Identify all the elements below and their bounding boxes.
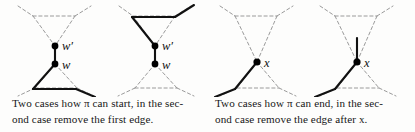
dashed-edge — [177, 88, 194, 96]
dashed-edge — [135, 64, 155, 88]
solid-edge — [132, 17, 155, 46]
node-label-w-prime: w′ — [62, 39, 73, 53]
caption-start-line-1: Two cases how π can start, in the sec- — [12, 96, 219, 112]
diagram-end-case-2: x — [315, 6, 396, 97]
node-label-w: w — [62, 58, 71, 72]
dashed-edge — [220, 6, 235, 16]
node-label-w-prime: w′ — [162, 39, 173, 53]
diagram-end-case-1: x — [215, 6, 296, 97]
diagram-group-start: w′ w — [0, 0, 207, 97]
caption-start: Two cases how π can start, in the sec- o… — [0, 96, 219, 127]
dashed-edge — [377, 6, 393, 16]
dashed-lattice-end-1 — [220, 6, 296, 96]
diagram-start-case-2: w′ w — [118, 5, 194, 96]
solid-path-start-2 — [132, 5, 194, 64]
diagram-start-case-1: w′ w — [18, 6, 95, 97]
caption-end-line-2: ond case remove the edge after x. — [215, 112, 415, 128]
diagram-area-start: w′ w — [0, 0, 207, 97]
diagram-area-end: x — [207, 0, 415, 97]
solid-edge — [235, 62, 257, 89]
node-w-prime — [152, 43, 159, 50]
node-label-w: w — [162, 58, 171, 72]
dashed-edge — [18, 6, 33, 16]
caption-start-line-2: ond case remove the first edge. — [12, 112, 219, 128]
dashed-edge — [75, 6, 91, 16]
dashed-edge — [379, 88, 396, 96]
node-x — [253, 58, 260, 65]
node-label-x: x — [363, 56, 370, 70]
caption-end-line-1: Two cases how π can end, in the sec- — [215, 96, 415, 112]
dashed-edge — [335, 16, 357, 62]
figure-panel-end: x — [207, 0, 415, 132]
solid-edge — [175, 5, 194, 17]
solid-edge — [33, 64, 55, 89]
figure-root: w′ w — [0, 0, 415, 132]
caption-end: Two cases how π can end, in the sec- ond… — [207, 96, 415, 127]
node-x — [353, 58, 360, 65]
node-label-x: x — [263, 56, 270, 70]
node-w-prime — [52, 43, 59, 50]
diagram-group-end: x — [207, 0, 415, 97]
dashed-edge — [279, 88, 296, 96]
dashed-edge — [119, 6, 133, 16]
dashed-edge — [235, 16, 257, 62]
node-w — [52, 61, 59, 68]
dashed-edge — [277, 6, 293, 16]
solid-edge — [335, 62, 357, 89]
figure-panel-start: w′ w — [0, 0, 207, 132]
node-w — [152, 61, 159, 68]
solid-path-end-1 — [215, 62, 257, 97]
dashed-edge — [118, 88, 135, 96]
dashed-edge — [33, 16, 55, 46]
dashed-edge — [320, 6, 335, 16]
